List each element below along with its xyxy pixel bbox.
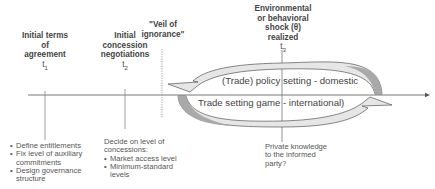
t1-detail-item: Fix level of auxiliary commitments <box>10 150 90 167</box>
t3-heading: Environmental or behavioral shock (θ) re… <box>243 4 323 56</box>
t3-details: Private knowledge to the informed party? <box>265 143 335 168</box>
t1-time-label: t1 <box>12 60 78 73</box>
t2-time-label: t2 <box>92 60 158 73</box>
t1-details: Define entitlements Fix level of auxilia… <box>10 142 90 183</box>
domestic-loop-label: (Trade) policy setting - domestic <box>222 75 358 86</box>
international-loop-label: Trade setting game - international) <box>198 97 344 108</box>
t1-heading: Initial terms of agreement t1 <box>12 31 78 73</box>
t2-detail-item: Minimum-standard levels <box>104 163 184 180</box>
veil-of-ignorance-label: "Veil of ignorance" <box>136 20 190 39</box>
timeline-arrowhead-icon <box>425 93 430 97</box>
t2-details: Decide on level of concessions: Market a… <box>104 138 184 179</box>
t3-time-label: t3 <box>243 42 323 55</box>
t1-detail-item: Design governance structure <box>10 167 90 184</box>
t2-details-intro: Decide on level of concessions: <box>104 138 184 155</box>
